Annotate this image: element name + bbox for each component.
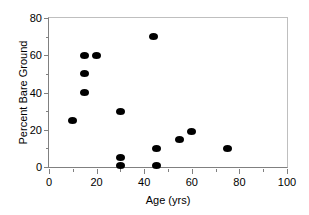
- x-axis-minor-tick: [73, 169, 74, 172]
- scatter-chart-figure: Percent Bare Ground 02040608002040608010…: [0, 0, 309, 215]
- y-axis-tick-label: 20: [30, 124, 42, 136]
- y-axis-minor-tick: [46, 111, 49, 112]
- plot-area: 020406080020406080100: [48, 17, 288, 168]
- x-axis-minor-tick: [120, 169, 121, 172]
- data-point: [149, 33, 158, 40]
- x-axis-tick-label: 0: [46, 176, 52, 188]
- data-point: [80, 70, 89, 77]
- y-axis-tick-label: 60: [30, 49, 42, 61]
- data-point: [187, 128, 196, 135]
- data-point: [68, 117, 77, 124]
- data-point: [116, 162, 125, 169]
- x-axis-minor-tick: [263, 169, 264, 172]
- y-axis-minor-tick: [46, 37, 49, 38]
- y-axis-minor-tick: [46, 74, 49, 75]
- y-axis-minor-tick: [46, 148, 49, 149]
- x-axis-minor-tick: [216, 169, 217, 172]
- x-axis-tick-label: 80: [233, 176, 245, 188]
- x-axis-tick-label: 20: [90, 176, 102, 188]
- x-axis-tick: [239, 169, 240, 174]
- data-point: [223, 145, 232, 152]
- data-point: [116, 154, 125, 161]
- y-axis-tick: [44, 55, 49, 56]
- y-axis-tick: [44, 130, 49, 131]
- x-axis-tick-label: 40: [138, 176, 150, 188]
- x-axis-tick-label: 100: [278, 176, 296, 188]
- data-point: [152, 162, 161, 169]
- y-axis-tick: [44, 18, 49, 19]
- y-axis-tick-label: 80: [30, 12, 42, 24]
- y-axis-tick-label: 0: [36, 161, 42, 173]
- x-axis-title: Age (yrs): [48, 193, 288, 207]
- x-axis-minor-tick: [168, 169, 169, 172]
- data-point: [175, 136, 184, 143]
- y-axis-tick: [44, 93, 49, 94]
- data-point: [80, 89, 89, 96]
- data-point: [80, 52, 89, 59]
- x-axis-tick: [97, 169, 98, 174]
- x-axis-tick: [192, 169, 193, 174]
- data-point: [92, 52, 101, 59]
- x-axis-tick: [49, 169, 50, 174]
- data-point: [152, 145, 161, 152]
- x-axis-tick-label: 60: [186, 176, 198, 188]
- y-axis-title: Percent Bare Ground: [16, 17, 30, 168]
- x-axis-tick: [144, 169, 145, 174]
- y-axis-tick: [44, 167, 49, 168]
- x-axis-tick: [287, 169, 288, 174]
- data-point: [116, 108, 125, 115]
- y-axis-tick-label: 40: [30, 87, 42, 99]
